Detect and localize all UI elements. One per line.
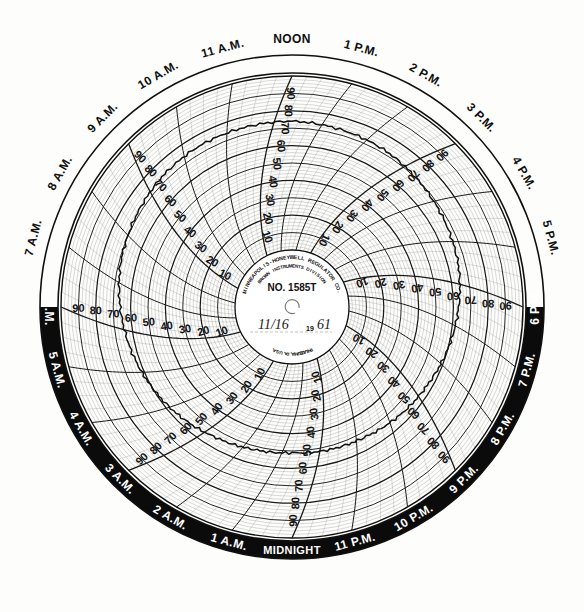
scale-number-0-60: 60: [275, 139, 288, 152]
hub-chart-number: NO. 1585T: [268, 282, 317, 293]
scale-number-90-30: 30: [392, 278, 406, 292]
scale-number-90-40: 40: [410, 282, 424, 296]
hour-label-MIDNIGHT: MIDNIGHT: [263, 544, 321, 556]
scale-number-90-80: 80: [482, 298, 494, 310]
scale-number-270-80: 80: [90, 304, 102, 316]
scale-number-180-40: 40: [304, 425, 318, 439]
scale-number-180-70: 70: [292, 479, 304, 492]
hub-year-prefix: 19: [306, 325, 314, 332]
circular-chart-recorder: 1020304050607080901020304050607080901020…: [0, 0, 584, 612]
scale-number-180-80: 80: [289, 497, 301, 509]
scale-number-0-70: 70: [279, 122, 291, 135]
chart-canvas: 1020304050607080901020304050607080901020…: [0, 0, 584, 612]
scale-number-0-90: 90: [285, 87, 297, 99]
scale-number-270-30: 30: [178, 322, 192, 336]
scale-number-270-50: 50: [142, 315, 155, 328]
scale-number-90-50: 50: [429, 286, 442, 299]
scale-number-0-30: 30: [263, 193, 277, 207]
scale-number-180-90: 90: [287, 514, 299, 526]
scale-number-270-90: 90: [72, 302, 84, 314]
scale-number-270-70: 70: [107, 307, 120, 319]
hub-year-written: 61: [317, 317, 331, 332]
hour-label-6AM: 6 A.M.: [42, 288, 56, 325]
scale-number-0-40: 40: [267, 175, 281, 189]
scale-number-180-30: 30: [307, 407, 321, 421]
hub-date-written: 11/16: [258, 317, 289, 332]
scale-number-0-50: 50: [271, 157, 284, 170]
hour-label-6PM: 6 P.M.: [528, 289, 542, 325]
scale-number-270-60: 60: [124, 311, 137, 324]
hub-city-char: ,: [290, 351, 291, 356]
scale-number-180-60: 60: [296, 462, 309, 475]
scale-number-90-70: 70: [464, 294, 477, 306]
scale-number-180-50: 50: [300, 444, 313, 457]
hour-label-NOON: NOON: [273, 32, 311, 46]
scale-number-0-80: 80: [283, 105, 295, 117]
scale-number-270-40: 40: [160, 319, 174, 333]
scale-number-90-90: 90: [499, 300, 511, 312]
scale-number-90-60: 60: [447, 290, 460, 303]
